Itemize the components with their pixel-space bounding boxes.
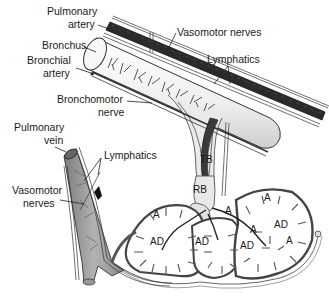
label-alveolus-5: A xyxy=(286,235,293,246)
label-bronchial-artery-2: artery xyxy=(43,67,71,79)
label-bronchomotor-nerve: Bronchomotor xyxy=(57,93,123,105)
label-pulmonary-vein: Pulmonary xyxy=(14,121,65,133)
label-terminal-bronchiole: TB xyxy=(200,154,213,165)
label-bronchomotor-nerve-2: nerve xyxy=(98,106,124,118)
label-alveolar-duct-3: AD xyxy=(274,219,288,230)
label-vasomotor-nerves-top: Vasomotor nerves xyxy=(177,26,261,38)
label-alveolus-3: A xyxy=(264,192,271,203)
label-bronchial-artery: Bronchial xyxy=(27,54,71,66)
label-alveolus-4: A xyxy=(250,224,257,235)
leader-pulmonary-vein xyxy=(55,147,66,152)
label-lymphatics-top: Lymphatics xyxy=(207,53,260,65)
label-pulmonary-artery: Pulmonary xyxy=(47,5,98,17)
label-alveolar-duct-2: AD xyxy=(195,236,209,247)
leader-vasomotor-nerves-top xyxy=(168,33,176,49)
label-alveolus-2: A xyxy=(225,205,232,216)
label-pulmonary-artery-2: artery xyxy=(68,18,96,30)
label-alveolus-1: A xyxy=(153,209,160,220)
label-alveolar-duct-1: AD xyxy=(150,236,164,247)
label-lymphatics-left: Lymphatics xyxy=(104,149,157,161)
label-respiratory-bronchiole: RB xyxy=(193,184,207,195)
label-alveolar-duct-4: AD xyxy=(240,240,254,251)
label-bronchus: Bronchus xyxy=(42,39,86,51)
lung-anatomy-diagram: Pulmonary artery Vasomotor nerves Bronch… xyxy=(0,0,329,296)
label-pulmonary-vein-2: vein xyxy=(44,134,63,146)
label-vasomotor-nerves-left: Vasomotor xyxy=(12,184,62,196)
label-vasomotor-nerves-left-2: nerves xyxy=(23,197,55,209)
